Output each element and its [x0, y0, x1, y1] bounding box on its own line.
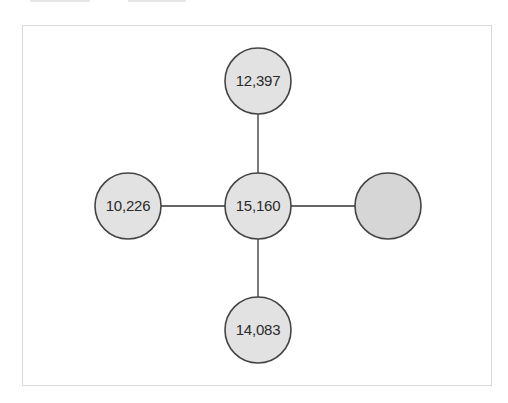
node-top-label: 12,397 [225, 71, 291, 91]
node-center-label: 15,160 [225, 196, 291, 216]
node-right-label [355, 196, 421, 216]
node-bottom-label: 14,083 [225, 320, 291, 340]
node-left-label: 10,226 [95, 196, 161, 216]
